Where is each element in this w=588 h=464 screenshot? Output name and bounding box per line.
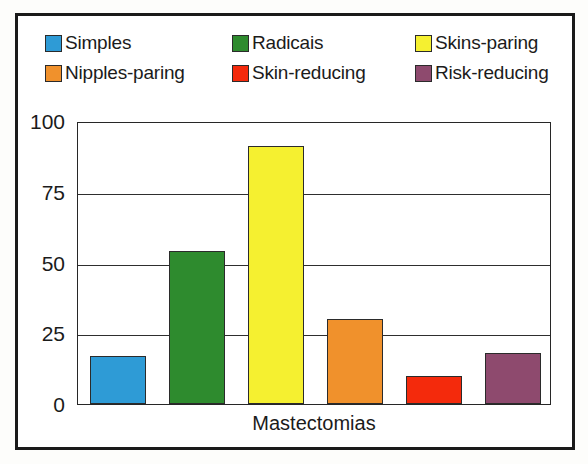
bar-risk-reducing[interactable] <box>485 353 541 404</box>
legend-label-nipples-paring: Nipples-paring <box>65 62 185 84</box>
legend-item-skin-reducing[interactable]: Skin-reducing <box>232 58 415 88</box>
legend-item-radicais[interactable]: Radicais <box>232 28 415 58</box>
bar-radicais[interactable] <box>169 251 225 404</box>
legend-swatch-skins-paring <box>415 35 432 52</box>
y-tick-label-25: 25 <box>5 323 65 344</box>
legend-label-simples: Simples <box>65 32 131 54</box>
y-tick-label-0: 0 <box>5 394 65 415</box>
chart-legend: Simples Radicais Skins-paring Nipples-pa… <box>45 28 565 88</box>
legend-label-skins-paring: Skins-paring <box>435 32 538 54</box>
y-tick-label-75: 75 <box>5 182 65 203</box>
x-axis-title: Mastectomias <box>77 412 551 435</box>
legend-row: Simples Radicais Skins-paring <box>45 28 565 58</box>
legend-swatch-risk-reducing <box>415 65 432 82</box>
y-tick-label-50: 50 <box>5 253 65 274</box>
legend-item-nipples-paring[interactable]: Nipples-paring <box>45 58 232 88</box>
plot-area <box>77 122 551 405</box>
legend-row: Nipples-paring Skin-reducing Risk-reduci… <box>45 58 565 88</box>
legend-swatch-radicais <box>232 35 249 52</box>
y-axis-tick-labels: 0255075100 <box>0 122 71 405</box>
legend-label-risk-reducing: Risk-reducing <box>435 62 549 84</box>
bar-skins-paring[interactable] <box>248 146 304 404</box>
bar-skin-reducing[interactable] <box>406 376 462 404</box>
bar-simples[interactable] <box>90 356 146 404</box>
legend-item-simples[interactable]: Simples <box>45 28 232 58</box>
chart-screenshot: Simples Radicais Skins-paring Nipples-pa… <box>0 0 588 464</box>
legend-item-risk-reducing[interactable]: Risk-reducing <box>415 58 565 88</box>
bar-nipples-paring[interactable] <box>327 319 383 404</box>
legend-item-skins-paring[interactable]: Skins-paring <box>415 28 565 58</box>
legend-swatch-simples <box>45 35 62 52</box>
y-tick-label-100: 100 <box>5 111 65 132</box>
legend-swatch-skin-reducing <box>232 65 249 82</box>
legend-label-radicais: Radicais <box>252 32 323 54</box>
bar-series <box>78 123 550 404</box>
legend-label-skin-reducing: Skin-reducing <box>252 62 366 84</box>
legend-swatch-nipples-paring <box>45 65 62 82</box>
